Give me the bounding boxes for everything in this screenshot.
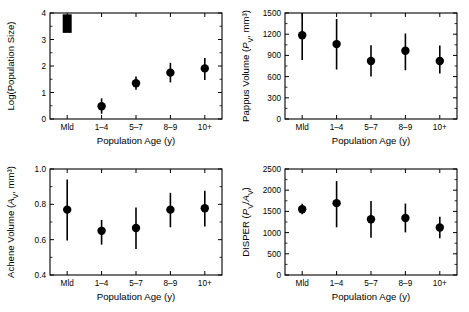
x-tick-label: 5–7 xyxy=(364,123,378,132)
x-tick-label: Mld xyxy=(296,123,310,132)
y-tick-label: 1 xyxy=(41,89,46,98)
data-point-marker xyxy=(166,68,174,76)
data-point-marker xyxy=(436,57,444,65)
x-tick-label: 10+ xyxy=(433,279,447,288)
y-tick-label: 1200 xyxy=(263,30,282,39)
data-point-marker xyxy=(97,102,105,110)
y-tick-label: 1.0 xyxy=(35,165,47,174)
x-tick-label: 1–4 xyxy=(330,279,344,288)
data-point-marker xyxy=(367,57,375,65)
y-tick-label: 1500 xyxy=(263,9,282,18)
y-tick-label: 2000 xyxy=(263,186,282,195)
y-tick-label: 3 xyxy=(41,36,46,45)
y-tick-label: 0 xyxy=(276,115,281,124)
y-tick-label: 0 xyxy=(276,271,281,280)
data-point-marker xyxy=(166,205,174,213)
x-tick-label: 10+ xyxy=(433,123,447,132)
y-tick-label: 1500 xyxy=(263,207,282,216)
x-tick-label: 8–9 xyxy=(399,123,413,132)
x-tick-label: Mld xyxy=(296,279,310,288)
y-tick-label: 500 xyxy=(267,250,281,259)
y-axis-label: Log(Population Size) xyxy=(5,21,16,110)
data-point-marker xyxy=(367,215,375,223)
y-tick-label: 0 xyxy=(41,115,46,124)
data-point-marker xyxy=(97,227,105,235)
x-tick-label: 8–9 xyxy=(399,279,413,288)
x-tick-label: 1–4 xyxy=(330,123,344,132)
panel-plot-area-bottomleft: 0.40.60.81.0Mld1–45–78–910+Population Ag… xyxy=(0,156,234,312)
panel-log-population-size: 01234Mld1–45–78–910+Population Age (y)Lo… xyxy=(0,0,234,156)
x-tick-label: Mld xyxy=(61,123,75,132)
y-axis-label: Achene Volume (AV, mm³) xyxy=(5,166,19,278)
data-point-marker xyxy=(436,223,444,231)
x-axis-label: Population Age (y) xyxy=(97,135,175,146)
data-point-marker xyxy=(332,199,340,207)
data-point-marker xyxy=(132,79,140,87)
x-axis-label: Population Age (y) xyxy=(97,291,175,302)
x-axis-label: Population Age (y) xyxy=(332,291,410,302)
panel-pappus-volume: 030060090012001500Mld1–45–78–910+Populat… xyxy=(235,0,469,156)
y-tick-label: 0.8 xyxy=(35,200,47,209)
data-point-marker xyxy=(201,204,209,212)
data-point-marker xyxy=(401,214,409,222)
panel-plot-area-topright: 030060090012001500Mld1–45–78–910+Populat… xyxy=(235,0,469,156)
x-tick-label: 5–7 xyxy=(364,279,378,288)
figure-multipanel-scatter: 01234Mld1–45–78–910+Population Age (y)Lo… xyxy=(0,0,469,312)
data-point-marker xyxy=(401,47,409,55)
y-tick-label: 2500 xyxy=(263,165,282,174)
panel-plot-area-topleft: 01234Mld1–45–78–910+Population Age (y)Lo… xyxy=(0,0,234,156)
data-point-marker xyxy=(298,31,306,39)
y-tick-label: 4 xyxy=(41,9,46,18)
x-tick-label: 1–4 xyxy=(95,279,109,288)
x-axis-label: Population Age (y) xyxy=(332,135,410,146)
x-tick-label: 5–7 xyxy=(129,123,143,132)
y-tick-label: 300 xyxy=(267,94,281,103)
axis-frame xyxy=(50,13,222,119)
x-tick-label: 5–7 xyxy=(129,279,143,288)
x-tick-label: 1–4 xyxy=(95,123,109,132)
data-point-marker xyxy=(298,205,306,213)
y-axis-label: DISPER (PV/AV) xyxy=(240,187,254,257)
x-tick-label: 8–9 xyxy=(164,279,178,288)
y-tick-label: 600 xyxy=(267,73,281,82)
y-tick-label: 900 xyxy=(267,51,281,60)
panel-achene-volume: 0.40.60.81.0Mld1–45–78–910+Population Ag… xyxy=(0,156,234,312)
panel-disper: 05001000150020002500Mld1–45–78–910+Popul… xyxy=(235,156,469,312)
x-tick-label: 8–9 xyxy=(164,123,178,132)
y-axis-label: Pappus Volume (PV, mm³) xyxy=(240,10,254,122)
y-tick-label: 1000 xyxy=(263,229,282,238)
x-tick-label: 10+ xyxy=(198,279,212,288)
y-tick-label: 0.6 xyxy=(35,236,47,245)
data-point-marker xyxy=(332,40,340,48)
x-tick-label: Mld xyxy=(61,279,75,288)
y-tick-label: 2 xyxy=(41,62,46,71)
data-point-marker xyxy=(132,224,140,232)
panel-plot-area-bottomright: 05001000150020002500Mld1–45–78–910+Popul… xyxy=(235,156,469,312)
data-point-marker xyxy=(201,64,209,72)
x-tick-label: 10+ xyxy=(198,123,212,132)
y-tick-label: 0.4 xyxy=(35,271,47,280)
data-point-marker xyxy=(63,205,71,213)
